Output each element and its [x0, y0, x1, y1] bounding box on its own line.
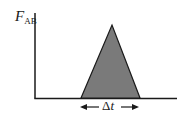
- time-variable: t: [110, 98, 114, 113]
- y-axis-label-main: F: [15, 8, 24, 24]
- duration-label: Δt: [102, 98, 114, 114]
- left-arrow-icon: [80, 104, 99, 110]
- force-pulse-triangle: [81, 25, 140, 98]
- y-axis-label-subscript: AB: [24, 16, 37, 26]
- y-axis-label: FAB: [15, 8, 37, 26]
- right-arrow-icon: [121, 104, 139, 110]
